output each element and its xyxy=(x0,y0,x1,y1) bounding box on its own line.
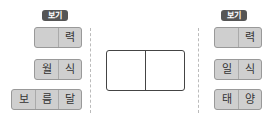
right-word-row-3: 태 양 xyxy=(214,89,262,110)
syllable-cell: 달 xyxy=(58,90,81,109)
right-word-row-1: 력 xyxy=(214,27,262,48)
left-divider xyxy=(90,28,91,113)
syllable-cell: 일 xyxy=(215,60,238,79)
right-example-badge: 보기 xyxy=(221,10,247,21)
syllable-cell xyxy=(215,28,238,47)
syllable-cell: 보 xyxy=(12,90,35,109)
left-example-badge: 보기 xyxy=(42,10,68,21)
syllable-cell: 식 xyxy=(238,60,261,79)
left-word-row-3: 보 름 달 xyxy=(11,89,82,110)
answer-box[interactable] xyxy=(106,50,185,91)
syllable-cell: 월 xyxy=(35,60,58,79)
syllable-cell: 식 xyxy=(58,60,81,79)
answer-cell-2[interactable] xyxy=(145,51,184,90)
right-divider xyxy=(198,28,199,113)
answer-cell-1[interactable] xyxy=(107,51,145,90)
right-word-row-2: 일 식 xyxy=(214,59,262,80)
syllable-cell: 력 xyxy=(238,28,261,47)
left-word-row-2: 월 식 xyxy=(34,59,82,80)
syllable-cell: 름 xyxy=(35,90,58,109)
left-word-row-1: 력 xyxy=(34,27,82,48)
syllable-cell: 양 xyxy=(238,90,261,109)
syllable-cell xyxy=(35,28,58,47)
syllable-cell: 력 xyxy=(58,28,81,47)
syllable-cell: 태 xyxy=(215,90,238,109)
